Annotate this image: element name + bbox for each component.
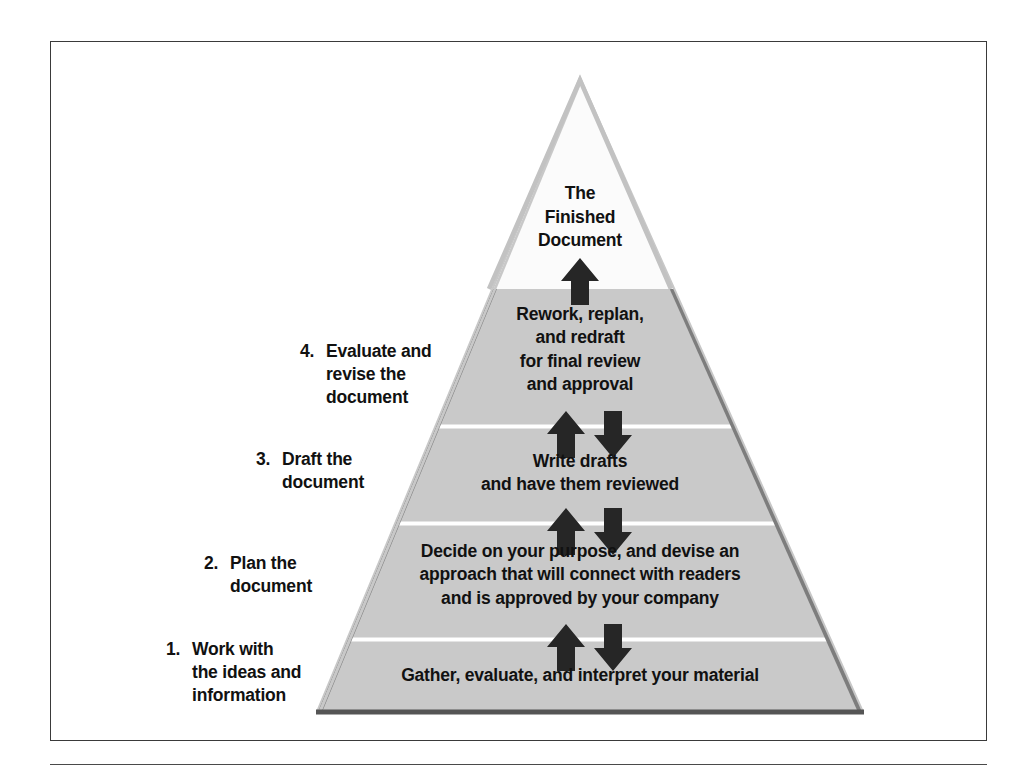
- apex-label: The Finished Document: [480, 182, 680, 253]
- side-label-step-3: 3. Draft the document: [256, 448, 420, 494]
- side-label-step-3-number: 3.: [256, 448, 282, 471]
- divider-line-4: [300, 425, 880, 429]
- level-1-interior-text: Gather, evaluate, and interpret your mat…: [330, 664, 830, 686]
- apex-mask: [300, 60, 880, 289]
- side-label-step-2-number: 2.: [204, 552, 230, 575]
- side-label-step-4-text: Evaluate and revise the document: [326, 340, 432, 408]
- divider-line-2: [300, 638, 880, 642]
- side-label-step-2: 2. Plan the document: [204, 552, 368, 598]
- level-4-interior-text: Rework, replan, and redraft for final re…: [440, 303, 720, 396]
- side-label-step-3-text: Draft the document: [282, 448, 364, 494]
- divider-line-3: [300, 522, 880, 526]
- side-label-step-1-text: Work with the ideas and information: [192, 638, 301, 706]
- side-label-step-4-number: 4.: [300, 340, 326, 363]
- level-2-interior-text: Decide on your purpose, and devise an ap…: [378, 540, 782, 610]
- side-label-step-1-number: 1.: [166, 638, 192, 661]
- side-label-step-2-text: Plan the document: [230, 552, 312, 598]
- side-label-step-1: 1. Work with the ideas and information: [166, 638, 338, 706]
- bottom-rule: [50, 764, 987, 765]
- side-label-step-4: 4. Evaluate and revise the document: [300, 340, 464, 408]
- figure-root: The Finished Document Rework, replan, an…: [0, 0, 1036, 776]
- level-3-interior-text: Write drafts and have them reviewed: [420, 450, 740, 497]
